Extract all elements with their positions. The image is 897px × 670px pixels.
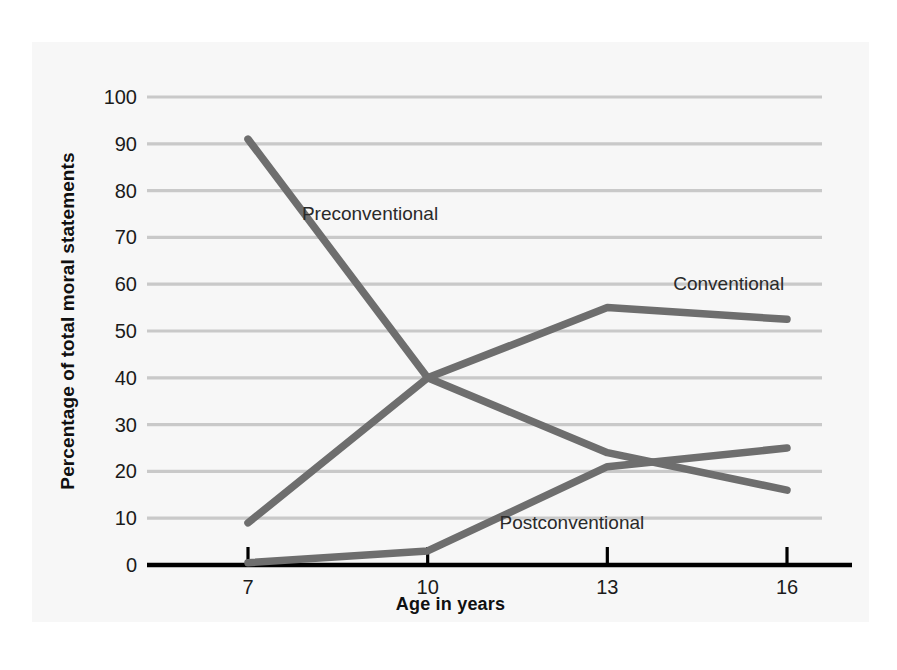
y-tick-label: 90	[79, 134, 137, 154]
series-label-preconventional: Preconventional	[302, 204, 438, 223]
y-tick-label: 60	[79, 274, 137, 294]
series-label-postconventional: Postconventional	[500, 513, 645, 532]
series-label-conventional: Conventional	[673, 274, 784, 293]
chart-figure: Percentage of total moral statements Age…	[32, 42, 869, 622]
y-tick-label: 0	[79, 555, 137, 575]
y-tick-label: 10	[79, 508, 137, 528]
x-tick-label: 16	[757, 577, 817, 597]
x-tick-label: 7	[218, 577, 278, 597]
x-tick-label: 13	[577, 577, 637, 597]
x-tick-label: 10	[398, 577, 458, 597]
y-tick-label: 30	[79, 415, 137, 435]
y-tick-label: 100	[79, 87, 137, 107]
y-tick-label: 40	[79, 368, 137, 388]
y-tick-label: 20	[79, 461, 137, 481]
plot-area: 1009080706050403020100 7101316 Preconven…	[32, 42, 869, 622]
chart-canvas	[32, 42, 869, 622]
y-tick-label: 70	[79, 227, 137, 247]
y-tick-label: 50	[79, 321, 137, 341]
y-tick-label: 80	[79, 181, 137, 201]
